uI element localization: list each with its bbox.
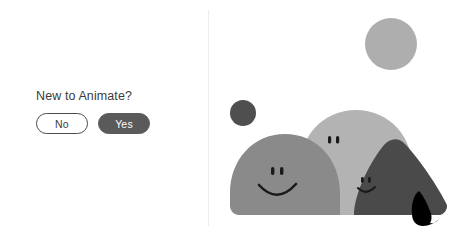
yes-button[interactable]: Yes — [98, 113, 150, 134]
blob-right-dark-eye-left — [361, 177, 364, 183]
onboarding-prompt: New to Animate? No Yes — [36, 88, 176, 134]
blob-front-mid-eye-right — [280, 167, 283, 175]
small-circle-dark-icon — [230, 100, 256, 126]
no-button[interactable]: No — [36, 113, 88, 134]
blob-back-light-eye-right — [336, 136, 339, 144]
small-circle-accent-icon — [365, 18, 417, 70]
blob-characters-illustration — [209, 0, 473, 240]
blob-back-light-eye-left — [328, 136, 331, 144]
page-title: New to Animate? — [36, 88, 176, 104]
choice-row: No Yes — [36, 113, 176, 134]
app-screen: New to Animate? No Yes — [0, 0, 473, 240]
blob-right-dark-eye-right — [368, 177, 371, 183]
blob-front-mid-eye-left — [271, 167, 274, 175]
right-panel — [209, 0, 473, 240]
left-panel: New to Animate? No Yes — [0, 0, 209, 240]
